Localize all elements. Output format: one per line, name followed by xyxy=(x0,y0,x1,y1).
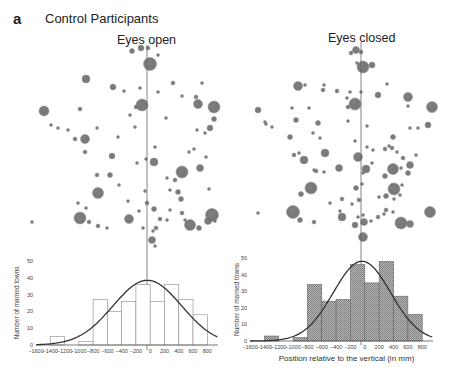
histogram-bar xyxy=(379,261,393,341)
y-tick-label: 30 xyxy=(241,288,247,294)
x-tick-label: 0 xyxy=(363,344,366,350)
x-tick-label: −1600 xyxy=(28,348,43,354)
histogram-bar xyxy=(350,265,364,341)
y-tick-label: 40 xyxy=(241,272,247,278)
y-tick-label: 40 xyxy=(27,275,33,281)
x-tick-label: 400 xyxy=(389,344,398,350)
histogram-bar xyxy=(93,300,107,345)
x-tick-label: −400 xyxy=(115,348,127,354)
x-tick-label: −1400 xyxy=(257,344,272,350)
histogram-bar xyxy=(365,283,379,341)
histogram-bar xyxy=(107,311,121,345)
y-tick-label: 10 xyxy=(241,321,247,327)
histogram-bar xyxy=(150,301,164,345)
x-tick-label: −600 xyxy=(101,348,113,354)
x-tick-label: −1400 xyxy=(43,348,58,354)
x-tick-label: −1000 xyxy=(71,348,86,354)
x-tick-label: −1200 xyxy=(57,348,72,354)
figure-canvas: 01020304050−1600−1400−1200−1000−800−600−… xyxy=(0,0,450,379)
y-tick-label: 50 xyxy=(241,255,247,261)
histogram-eyes-open: 01020304050−1600−1400−1200−1000−800−600−… xyxy=(13,258,218,354)
y-tick-label: 30 xyxy=(27,292,33,298)
histogram-bar xyxy=(307,285,321,341)
x-axis-label: Position relative to the vertical (in mm… xyxy=(279,354,415,363)
x-tick-label: 200 xyxy=(375,344,384,350)
x-tick-label: 0 xyxy=(149,348,152,354)
x-tick-label: −1200 xyxy=(271,344,286,350)
histogram-bar xyxy=(122,301,136,345)
x-tick-label: 400 xyxy=(174,348,183,354)
histogram-bar xyxy=(394,296,408,341)
x-tick-label: −200 xyxy=(344,344,356,350)
x-tick-label: 200 xyxy=(160,348,169,354)
x-tick-label: −400 xyxy=(330,344,342,350)
x-tick-label: −800 xyxy=(301,344,313,350)
histogram-bar xyxy=(408,314,422,341)
x-tick-label: 800 xyxy=(203,348,212,354)
histogram-bar xyxy=(136,285,150,345)
histogram-bar xyxy=(164,285,178,345)
x-tick-label: −1600 xyxy=(242,344,257,350)
x-tick-label: −800 xyxy=(87,348,99,354)
x-tick-label: 600 xyxy=(188,348,197,354)
y-axis-label: Number of marned towns xyxy=(13,266,20,340)
x-tick-label: −200 xyxy=(130,348,142,354)
x-tick-label: 800 xyxy=(418,344,427,350)
y-tick-label: 50 xyxy=(27,258,33,264)
town-dot-map-eyes-open xyxy=(31,45,221,248)
histogram-bar xyxy=(179,300,193,345)
y-tick-label: 10 xyxy=(27,325,33,331)
histogram-bar xyxy=(293,338,307,341)
histogram-eyes-closed: 01020304050−1600−1400−1200−1000−800−600−… xyxy=(233,255,433,363)
histogram-bar xyxy=(336,300,350,342)
y-axis-label: Number of marned towns xyxy=(233,262,240,336)
x-tick-label: 600 xyxy=(403,344,412,350)
histogram-bar xyxy=(79,342,93,345)
x-tick-label: −1000 xyxy=(285,344,300,350)
x-tick-label: −600 xyxy=(316,344,328,350)
town-dot-map-eyes-closed xyxy=(255,47,438,242)
y-tick-label: 20 xyxy=(241,305,247,311)
y-tick-label: 20 xyxy=(27,308,33,314)
